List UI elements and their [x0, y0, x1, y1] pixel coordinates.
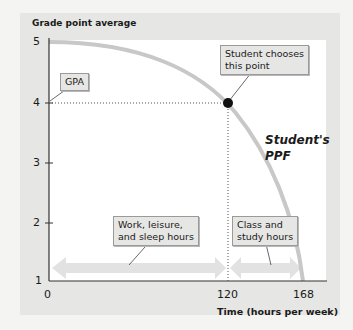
work-line-1: Work, leisure, [118, 219, 194, 231]
x-tick-0: 0 [44, 288, 51, 301]
x-tick-168: 168 [293, 288, 314, 301]
work-hours-arrow [52, 257, 226, 279]
ppf-label: Student's PPF [265, 132, 330, 164]
y-tick-2: 2 [33, 216, 40, 229]
work-leader [129, 247, 145, 265]
x-tick-120: 120 [217, 288, 238, 301]
y-tick-1: 1 [35, 274, 42, 287]
class-line-2: study hours [237, 231, 293, 243]
y-tick-3: 3 [33, 156, 40, 169]
work-callout: Work, leisure, and sleep hours [113, 216, 199, 246]
choice-line-1: Student chooses [225, 48, 304, 60]
class-leader [266, 244, 271, 265]
class-callout: Class and study hours [232, 216, 298, 246]
choice-line-2: this point [225, 60, 304, 72]
work-line-2: and sleep hours [118, 231, 194, 243]
class-hours-arrow [230, 257, 301, 279]
y-tick-4: 4 [33, 96, 40, 109]
y-axis-title: Grade point average [32, 18, 136, 28]
x-axis-title: Time (hours per week) [217, 306, 338, 317]
gpa-label: GPA [65, 76, 84, 87]
choice-callout: Student chooses this point [220, 45, 309, 75]
choice-leader [229, 73, 251, 101]
gpa-callout: GPA [60, 73, 89, 91]
ppf-line-2: PPF [265, 148, 330, 164]
ppf-line-1: Student's [265, 132, 330, 148]
class-line-1: Class and [237, 219, 293, 231]
y-tick-5: 5 [33, 35, 40, 48]
chosen-point [223, 98, 233, 108]
